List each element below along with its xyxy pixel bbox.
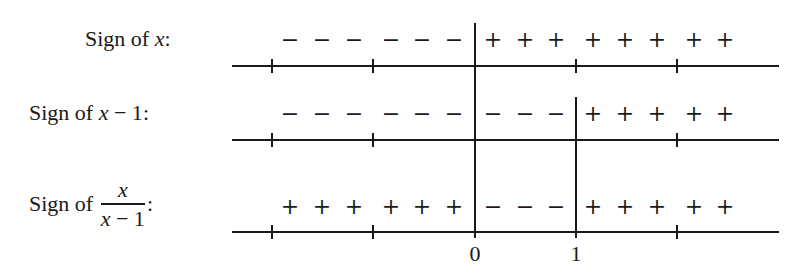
tick-mark <box>372 225 374 239</box>
row1-label: Sign of x: <box>85 28 171 50</box>
sign-symbol: − <box>345 29 363 51</box>
sign-symbol: − <box>516 196 534 218</box>
fraction-den-rest: − 1 <box>110 206 144 231</box>
row2-label-prefix: Sign of <box>29 100 99 125</box>
row1-label-colon: : <box>164 26 170 51</box>
row3-label-colon: : <box>147 191 153 216</box>
critical-line-one <box>575 97 577 238</box>
tick-mark <box>676 133 678 147</box>
sign-symbol: − <box>445 29 463 51</box>
sign-symbol: − <box>445 103 463 125</box>
sign-symbol: + <box>516 29 534 51</box>
sign-symbol: + <box>616 29 634 51</box>
tick-mark <box>271 59 273 73</box>
row3-label-prefix: Sign of <box>29 191 99 216</box>
sign-symbol: + <box>648 196 666 218</box>
tick-mark <box>372 133 374 147</box>
row2-label: Sign of x − 1: <box>29 102 149 124</box>
sign-symbol: + <box>281 196 299 218</box>
axis-label-one: 1 <box>571 243 582 265</box>
sign-symbol: − <box>484 196 502 218</box>
fraction-den-var: x <box>101 206 111 231</box>
sign-symbol: − <box>547 196 565 218</box>
row1-label-prefix: Sign of <box>85 26 155 51</box>
row2-label-colon: : <box>143 100 149 125</box>
fraction-bar <box>101 203 145 205</box>
sign-symbol: − <box>382 29 400 51</box>
sign-symbol: + <box>685 196 703 218</box>
row2-label-rest: − 1 <box>108 100 142 125</box>
sign-symbol: + <box>313 196 331 218</box>
sign-symbol: − <box>281 29 299 51</box>
sign-symbol: − <box>413 103 431 125</box>
sign-symbol: + <box>616 196 634 218</box>
axis-label-zero: 0 <box>470 243 481 265</box>
number-line-row3 <box>232 231 779 233</box>
sign-symbol: + <box>685 103 703 125</box>
row1-label-expr: x <box>155 26 165 51</box>
tick-mark <box>271 225 273 239</box>
fraction: xx − 1 <box>101 178 145 230</box>
sign-symbol: + <box>547 29 565 51</box>
tick-mark <box>575 59 577 73</box>
number-line-row1 <box>232 65 779 67</box>
row3-label: Sign of xx − 1: <box>29 178 153 230</box>
fraction-denominator: x − 1 <box>101 207 145 230</box>
sign-symbol: − <box>313 103 331 125</box>
tick-mark <box>271 133 273 147</box>
sign-symbol: − <box>547 103 565 125</box>
sign-symbol: + <box>345 196 363 218</box>
row2-label-var: x <box>99 100 109 125</box>
number-line-row2 <box>232 139 779 141</box>
sign-symbol: − <box>382 103 400 125</box>
sign-symbol: − <box>281 103 299 125</box>
sign-symbol: + <box>584 103 602 125</box>
tick-mark <box>676 59 678 73</box>
sign-symbol: − <box>516 103 534 125</box>
sign-symbol: + <box>616 103 634 125</box>
tick-mark <box>676 225 678 239</box>
sign-symbol: + <box>584 196 602 218</box>
sign-symbol: + <box>716 103 734 125</box>
sign-symbol: + <box>716 29 734 51</box>
critical-line-zero <box>474 23 476 238</box>
sign-symbol: + <box>584 29 602 51</box>
sign-symbol: − <box>313 29 331 51</box>
sign-symbol: + <box>716 196 734 218</box>
sign-symbol: + <box>382 196 400 218</box>
sign-symbol: − <box>345 103 363 125</box>
sign-symbol: + <box>648 29 666 51</box>
sign-symbol: + <box>648 103 666 125</box>
sign-symbol: + <box>445 196 463 218</box>
fraction-numerator: x <box>101 178 145 201</box>
sign-symbol: + <box>484 29 502 51</box>
sign-symbol: + <box>685 29 703 51</box>
sign-symbol: − <box>413 29 431 51</box>
sign-symbol: − <box>484 103 502 125</box>
sign-symbol: + <box>413 196 431 218</box>
tick-mark <box>372 59 374 73</box>
